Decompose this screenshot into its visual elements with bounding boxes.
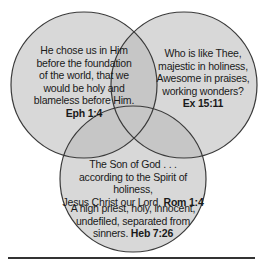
text-line: would be holy and xyxy=(18,82,150,95)
text-line: He chose us in Him xyxy=(18,44,150,57)
text-line: sinners. xyxy=(93,227,128,239)
text-line: A high priest, holy, innocent, xyxy=(66,202,200,215)
text-line: before the foundation xyxy=(18,57,150,70)
text-line: undefiled, separated from xyxy=(66,215,200,228)
text-line: Who is like Thee, xyxy=(148,47,258,60)
text-line: sinners. Heb 7:26 xyxy=(66,227,200,240)
text-line: blameless before Him. xyxy=(18,94,150,107)
text-line: working wonders? xyxy=(148,85,258,98)
right-circle-text: Who is like Thee, majestic in holiness, … xyxy=(148,47,258,110)
text-line: according to the Spirit of holiness, xyxy=(60,171,206,196)
left-circle-text: He chose us in Him before the foundation… xyxy=(18,44,150,119)
text-line: The Son of God . . . xyxy=(60,158,206,171)
scripture-reference: Ex 15:11 xyxy=(148,97,258,110)
bottom-circle-text-1: The Son of God . . . according to the Sp… xyxy=(60,158,206,208)
scripture-reference: Eph 1:4 xyxy=(18,107,150,120)
venn-diagram: He chose us in Him before the foundation… xyxy=(0,0,265,266)
text-line: majestic in holiness, xyxy=(148,60,258,73)
divider-line xyxy=(8,257,255,259)
text-line: of the world, that we xyxy=(18,69,150,82)
scripture-reference: Heb 7:26 xyxy=(131,227,173,239)
text-line: Awesome in praises, xyxy=(148,72,258,85)
bottom-circle-text-2: A high priest, holy, innocent, undefiled… xyxy=(66,202,200,240)
